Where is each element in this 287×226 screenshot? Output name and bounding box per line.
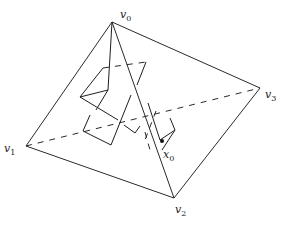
edge-v0-v2	[112, 22, 174, 198]
label-x0: x0	[163, 148, 174, 163]
edge-v2-v3	[174, 88, 260, 198]
hidden-edge-v1-v3	[26, 88, 260, 146]
label-v0: v0	[120, 8, 131, 23]
walk-path	[80, 22, 175, 150]
edge-v0-v3	[112, 22, 260, 88]
edge-v1-v2	[26, 146, 174, 198]
label-v2: v2	[175, 203, 186, 218]
tetrahedron-diagram: v0 v1 v2 v3 x0	[0, 0, 287, 226]
label-v3: v3	[265, 88, 276, 103]
point-x0	[160, 139, 164, 143]
label-v1: v1	[4, 142, 15, 157]
